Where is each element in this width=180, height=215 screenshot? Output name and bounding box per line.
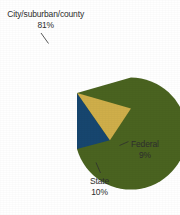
pie-chart-figure: City/suburban/county 81% Federal 9% Stat… <box>0 0 180 215</box>
pie-label-city-percent: 81% <box>7 20 84 31</box>
pie-label-city-name: City/suburban/county <box>7 9 84 19</box>
pie-label-city-suburban-county: City/suburban/county 81% <box>7 9 84 30</box>
pie-label-federal-percent: 9% <box>131 150 159 161</box>
pie-label-state-percent: 10% <box>90 187 109 198</box>
leader-line-city <box>41 33 49 44</box>
pie-label-federal: Federal 9% <box>131 139 159 160</box>
pie-label-state: State 10% <box>90 176 109 197</box>
chart-plot-area: City/suburban/county 81% Federal 9% Stat… <box>0 0 180 215</box>
pie-label-federal-name: Federal <box>131 139 159 149</box>
pie-label-state-name: State <box>90 176 109 186</box>
